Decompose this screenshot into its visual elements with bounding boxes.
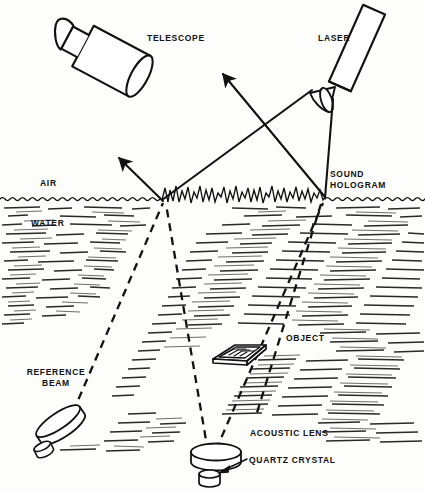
label-telescope: TELESCOPE bbox=[147, 33, 205, 44]
quartz-crystal bbox=[199, 470, 220, 487]
label-water: WATER bbox=[31, 218, 65, 229]
diagram-canvas bbox=[0, 0, 425, 491]
label-reference-beam: REFERENCE BEAM bbox=[16, 367, 96, 388]
label-object: OBJECT bbox=[286, 333, 325, 344]
label-sound-hologram: SOUND HOLOGRAM bbox=[330, 169, 386, 190]
label-laser: LASER bbox=[318, 33, 350, 44]
label-air: AIR bbox=[40, 178, 57, 189]
label-acoustic-lens: ACOUSTIC LENS bbox=[250, 428, 329, 439]
acoustic-holography-figure: TELESCOPE LASER AIR WATER SOUND HOLOGRAM… bbox=[0, 0, 425, 491]
acoustic-lens bbox=[191, 444, 241, 471]
label-quartz-crystal: QUARTZ CRYSTAL bbox=[249, 455, 336, 466]
